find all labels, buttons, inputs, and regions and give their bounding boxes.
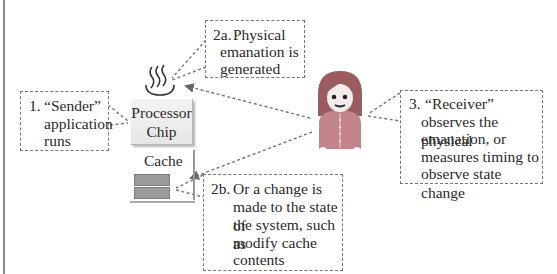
emanation-note: 2a. Physical emanation is generated (205, 20, 305, 78)
cache-block-2 (134, 187, 170, 199)
note-line: Or a change is (233, 179, 322, 198)
note-line: observe state change (421, 164, 542, 202)
processor-chip: Processor Chip (131, 99, 193, 145)
note-number: 1. (29, 96, 41, 115)
receiver-note: 3. “Receiver” observes the physical eman… (400, 90, 543, 184)
note-line: contents (233, 250, 285, 269)
note-line: runs (44, 131, 71, 150)
note-number: 3. (409, 94, 421, 113)
edge-emanation-to-heat (172, 40, 206, 78)
note-number: 2b. (211, 179, 230, 198)
processor-label-line1: Processor (131, 103, 192, 122)
note-line: generated (220, 59, 280, 78)
cache-label: Cache (144, 152, 183, 170)
note-line: emanation, or (421, 129, 506, 148)
note-line: “Receiver” (425, 94, 494, 113)
cache-block-1 (134, 174, 170, 186)
edge-receiver-to-cache (191, 132, 312, 178)
edge-receiver-note (368, 93, 400, 114)
edge-receiver-note-2 (368, 116, 400, 121)
note-line: “Sender” (44, 96, 101, 115)
edge-receiver-to-heat (186, 86, 310, 118)
sender-note: 1. “Sender” application runs (20, 91, 109, 151)
processor-label-line2: Chip (131, 122, 192, 141)
cache-frame-right (193, 150, 195, 200)
person-avatar-icon (318, 71, 362, 149)
cache: Cache (130, 150, 194, 202)
edge-emanation-to-heat-2 (172, 67, 206, 80)
state-change-note: 2b. Or a change is made to the state of … (203, 174, 343, 271)
heat-emanation-icon (146, 65, 174, 95)
cache-frame-bottom (130, 201, 195, 203)
